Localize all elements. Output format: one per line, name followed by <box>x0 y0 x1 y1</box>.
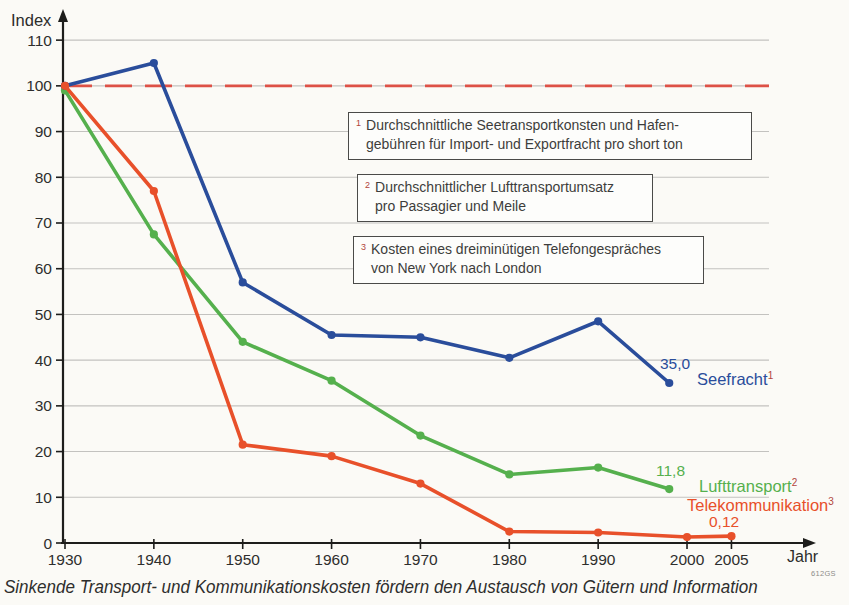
svg-text:30: 30 <box>35 397 53 414</box>
figure-caption: Sinkende Transport- und Kommunikationsko… <box>4 577 803 598</box>
seefracht-series-label: Seefracht1 <box>697 370 773 389</box>
footnote-number: 1 <box>356 117 361 129</box>
svg-text:110: 110 <box>27 32 52 49</box>
svg-text:20: 20 <box>35 443 53 460</box>
svg-text:40: 40 <box>35 352 53 369</box>
series-footnote-ref: 1 <box>768 370 774 381</box>
svg-text:10: 10 <box>35 489 53 506</box>
svg-text:2000: 2000 <box>670 551 705 568</box>
footnote-text: Kosten eines dreiminütigen Telefongesprä… <box>371 240 661 279</box>
lufttransport-series-label: Lufttransport2 <box>699 477 797 496</box>
footnote-number: 2 <box>365 179 370 191</box>
seefracht-end-value: 35,0 <box>660 355 690 373</box>
svg-text:50: 50 <box>35 306 53 323</box>
telekom-end-value: 0,12 <box>709 513 739 531</box>
footnote-box-telekom: 3 Kosten eines dreiminütigen Telefongesp… <box>353 236 704 284</box>
lufttransport-end-value: 11,8 <box>656 462 685 480</box>
series-footnote-ref: 2 <box>792 477 798 488</box>
x-axis-title: Jahr <box>787 548 818 566</box>
svg-text:0: 0 <box>43 535 52 552</box>
footnote-box-lufttransport: 2 Durchschnittlicher Lufttransportumsatz… <box>357 174 653 222</box>
svg-text:1970: 1970 <box>403 551 438 568</box>
footnote-box-seefracht: 1 Durchschnittliche Seetransportkonsten … <box>348 112 752 160</box>
svg-text:90: 90 <box>35 123 53 140</box>
footnote-text: Durchschnittlicher Lufttransportumsatz p… <box>375 178 614 217</box>
svg-text:70: 70 <box>35 214 53 231</box>
y-axis-title: Index <box>11 11 51 30</box>
footnote-number: 3 <box>361 241 366 253</box>
svg-text:100: 100 <box>26 77 52 94</box>
svg-text:1930: 1930 <box>48 551 83 568</box>
svg-text:1960: 1960 <box>314 551 349 568</box>
svg-text:2005: 2005 <box>714 551 748 568</box>
svg-text:1980: 1980 <box>492 551 527 568</box>
svg-text:1940: 1940 <box>137 551 172 568</box>
series-name: Seefracht <box>697 370 768 388</box>
series-name: Telekommunikation <box>687 496 828 514</box>
svg-text:60: 60 <box>35 260 53 277</box>
series-name: Lufttransport <box>699 477 792 495</box>
cost-index-figure: 0102030405060708090100110193019401950196… <box>0 0 849 605</box>
series-footnote-ref: 3 <box>828 496 834 507</box>
svg-text:1990: 1990 <box>581 551 616 568</box>
footnote-text: Durchschnittliche Seetransportkonsten un… <box>366 116 683 155</box>
figure-code: 612GS <box>811 569 836 578</box>
svg-text:80: 80 <box>35 169 53 186</box>
svg-text:1950: 1950 <box>225 551 260 568</box>
